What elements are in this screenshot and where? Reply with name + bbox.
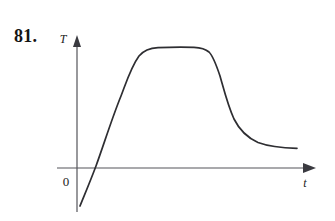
figure-container: 81. T t 0 bbox=[0, 0, 335, 221]
t-axis-arrowhead-icon bbox=[73, 35, 81, 47]
x-axis-arrowhead-icon bbox=[303, 163, 316, 173]
y-axis-label: T bbox=[60, 32, 68, 46]
temperature-curve bbox=[80, 47, 297, 206]
origin-label: 0 bbox=[63, 174, 70, 189]
temperature-vs-time-plot: T t 0 bbox=[0, 0, 335, 221]
x-axis-label: t bbox=[303, 176, 307, 190]
